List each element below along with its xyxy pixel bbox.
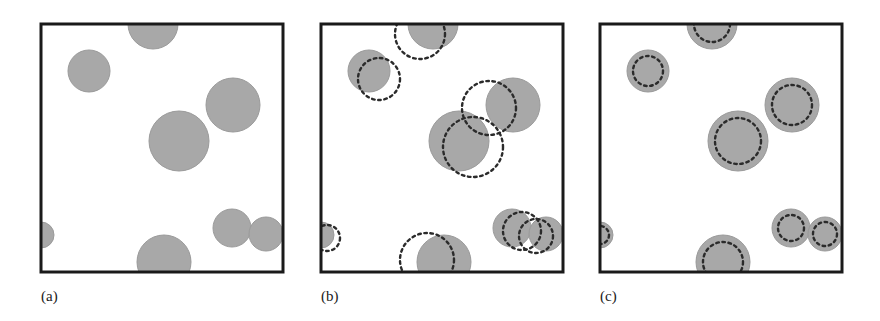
disk	[206, 78, 260, 132]
disk	[249, 217, 283, 251]
figure-svg: (a)(b)(c)	[0, 0, 880, 321]
figure-container: (a)(b)(c)	[0, 0, 880, 321]
disk	[68, 50, 110, 92]
disk	[486, 78, 540, 132]
disk	[348, 50, 390, 92]
panel-label-b: (b)	[321, 288, 339, 305]
disk	[708, 111, 768, 171]
panel-label-a: (a)	[41, 288, 58, 305]
panel-label-c: (c)	[600, 288, 617, 305]
disk	[493, 209, 531, 247]
disk	[213, 209, 251, 247]
disk	[149, 111, 209, 171]
